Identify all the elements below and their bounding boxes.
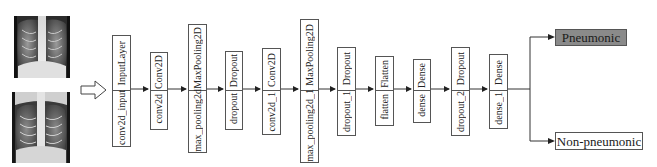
layer-name-label: dropout — [229, 93, 239, 124]
layer-name-label: dropout_1 — [342, 91, 352, 132]
output-label: Non-pneumonic — [557, 135, 641, 148]
layer-name-label: max_pooling2d_1 — [305, 89, 315, 162]
output-non-pneumonic: Non-pneumonic — [555, 132, 643, 150]
layer-name-label: dense — [417, 94, 427, 117]
layer-name-label: conv2d_1 — [267, 92, 277, 131]
output-label: Pneumonic — [562, 31, 621, 44]
layer-dense: Dense dense — [413, 59, 431, 123]
layer-type-label: MaxPooling2D — [305, 24, 315, 86]
layer-name-label: conv2d — [154, 94, 164, 123]
layer-conv2d-1: Conv2D conv2d_1 — [262, 48, 281, 135]
layer-type-label: Dropout — [456, 52, 466, 85]
layer-type-label: Conv2D — [267, 53, 277, 87]
layer-name-label: conv2d_input — [117, 90, 127, 145]
layer-name-label: dropout_2 — [456, 91, 466, 132]
layer-dropout-2: Dropout dropout_2 — [451, 47, 470, 136]
layer-type-label: Dropout — [229, 54, 239, 87]
layer-conv2d: Conv2D conv2d — [150, 52, 168, 130]
layer-type-label: Dense — [494, 60, 504, 85]
layer-type-label: Conv2D — [154, 55, 164, 89]
layer-type-label: Dense — [417, 63, 427, 88]
layer-input: InputLayer conv2d_input — [112, 35, 131, 147]
layer-name-label: flatten — [380, 94, 390, 120]
output-pneumonic: Pneumonic — [555, 29, 627, 46]
layer-name-label: dense_1 — [494, 92, 504, 125]
layer-type-label: Flatten — [380, 60, 390, 88]
layer-flatten: Flatten flatten — [375, 56, 394, 126]
layer-type-label: Dropout — [342, 52, 352, 85]
layer-type-label: MaxPooling2D — [193, 27, 203, 89]
layer-dense-1: Dense dense_1 — [489, 54, 508, 129]
layer-dropout-1: Dropout dropout_1 — [337, 47, 356, 136]
layer-dropout: Dropout dropout — [225, 51, 243, 130]
layer-max-pooling2d-1: MaxPooling2D max_pooling2d_1 — [300, 19, 319, 163]
layer-type-label: InputLayer — [117, 41, 127, 85]
layer-max-pooling2d: MaxPooling2D max_pooling2d — [188, 24, 207, 153]
layer-name-label: max_pooling2d — [193, 89, 203, 152]
